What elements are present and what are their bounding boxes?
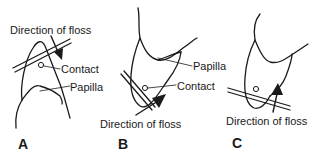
panel-c-direction-label: Direction of floss [226,115,307,127]
panel-a-papilla-label: Papilla [70,81,103,93]
panel-a-direction-label: Direction of floss [10,24,91,36]
contact-point-c [253,86,258,91]
direction-arrow-c [273,94,277,112]
panel-b-direction-label: Direction of floss [100,118,181,130]
panel-b-letter: B [118,137,128,151]
panel-c-drawing [228,14,308,112]
floss-b-2 [124,71,155,107]
contact-point-a [38,62,43,67]
tooth-outline-a [22,42,70,118]
tooth-right-c [255,40,308,63]
floss-b-1 [121,74,152,110]
contact-point-b [142,85,147,90]
panel-a-letter: A [18,137,28,151]
panel-c-letter: C [232,136,242,150]
contact-leader-a [44,66,60,69]
panel-a-contact-label: Contact [61,63,99,75]
panel-b-contact-label: Contact [177,80,215,92]
panel-b-papilla-label: Papilla [193,60,226,72]
direction-arrow-a [51,36,58,52]
tooth-left-edge-a [16,100,22,128]
tooth-outline-b [131,8,150,107]
papilla-leader-b [158,58,192,66]
direction-arrow-b [136,101,158,115]
papilla-c [270,54,292,96]
tooth-right-b [140,38,197,60]
